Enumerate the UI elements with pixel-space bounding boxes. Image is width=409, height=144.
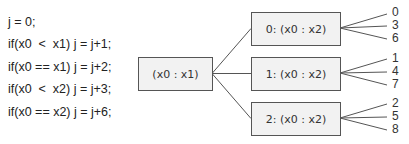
edge-child2-leaf1: [340, 117, 387, 118]
edge-child1-leaf2: [340, 73, 387, 85]
child-node-0: 0: (x0 : x2): [251, 12, 341, 46]
leaf-value: 4: [392, 65, 399, 77]
leaf-value: 8: [392, 123, 399, 135]
leaf-value: 1: [392, 52, 399, 64]
leaf-value: 7: [392, 78, 399, 90]
edge-child2-leaf0: [340, 104, 387, 118]
root-node: (x0 : x1): [138, 57, 213, 91]
edge-root-child2: [212, 74, 251, 119]
edge-root-child0: [212, 29, 251, 74]
leaf-value: 5: [392, 110, 399, 122]
leaf-value: 6: [392, 32, 399, 44]
edge-child1-leaf1: [340, 72, 387, 73]
leaf-value: 0: [392, 6, 399, 18]
leaf-value: 3: [392, 19, 399, 31]
child-node-1: 1: (x0 : x2): [251, 57, 341, 91]
leaf-value: 2: [392, 97, 399, 109]
edge-child1-leaf0: [340, 59, 387, 73]
edge-child2-leaf2: [340, 118, 387, 130]
child-node-2: 2: (x0 : x2): [251, 102, 341, 136]
edge-child0-leaf2: [340, 28, 387, 39]
